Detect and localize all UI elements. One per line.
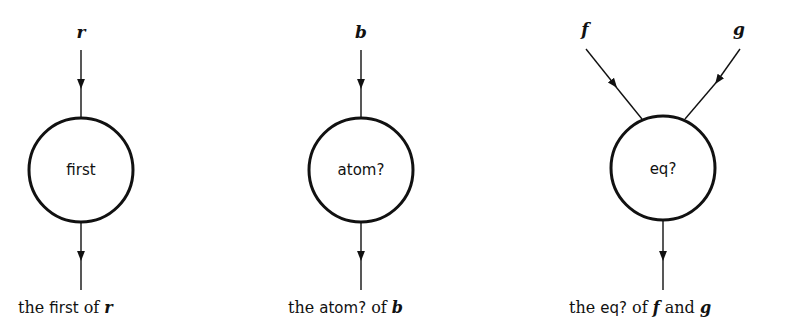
caption: the eq? of f and g xyxy=(569,298,711,317)
diagram-atom: b atom? the atom? of b xyxy=(288,22,413,317)
input-label-f: f xyxy=(580,19,591,39)
input-arrow-f xyxy=(586,49,614,84)
input-arrow-g xyxy=(718,49,740,80)
caption: the atom? of b xyxy=(288,298,403,317)
function-label: atom? xyxy=(338,161,385,179)
input-line-f xyxy=(612,82,642,119)
input-label-r: r xyxy=(77,22,87,42)
diagram-first: r first the first of r xyxy=(18,22,133,317)
input-line-g xyxy=(685,78,720,119)
caption: the first of r xyxy=(18,298,114,317)
function-label: eq? xyxy=(650,160,677,178)
input-label-b: b xyxy=(355,22,367,42)
diagram-eq: f g eq? the eq? of f and g xyxy=(569,19,745,317)
function-label: first xyxy=(66,161,95,179)
function-diagrams: r first the first of r b atom? the atom?… xyxy=(0,0,785,333)
input-label-g: g xyxy=(733,19,745,39)
